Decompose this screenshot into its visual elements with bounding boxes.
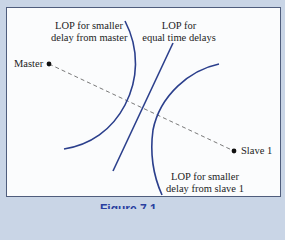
lop-equal-label-line2: equal time delays (138, 32, 220, 44)
figure-caption: Figure 7.1 (100, 203, 157, 209)
lop-master-label-line2: delay from master (51, 32, 127, 44)
master-node-dot (47, 62, 52, 67)
lop-master-label-line1: LOP for smaller (51, 20, 127, 32)
lop-slave1-label-line1: LOP for smaller (165, 171, 245, 183)
master-label: Master (14, 58, 43, 70)
lop-equal-label-line1: LOP for (138, 20, 220, 32)
slave1-node-dot (232, 149, 237, 154)
slave1-label: Slave 1 (241, 145, 272, 157)
lop-slave1-label-line2: delay from slave 1 (165, 183, 245, 195)
lop-equal-line (113, 43, 173, 171)
master-slave-baseline (49, 64, 234, 151)
